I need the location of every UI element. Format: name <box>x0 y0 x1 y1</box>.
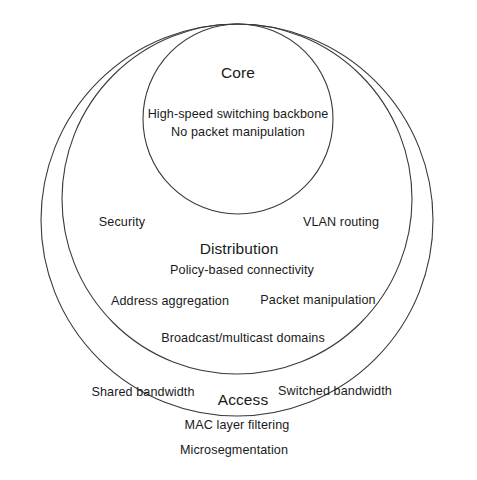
core-item-high-speed-switching-backbone: High-speed switching backbone <box>148 107 329 121</box>
core-item-no-packet-manipulation: No packet manipulation <box>171 125 305 139</box>
distribution-layer-heading: Distribution <box>200 240 279 258</box>
distribution-item-policy-based-connectivity: Policy-based connectivity <box>170 263 314 277</box>
access-item-switched-bandwidth: Switched bandwidth <box>278 384 392 398</box>
distribution-item-vlan-routing: VLAN routing <box>303 215 379 229</box>
network-hierarchy-diagram: Core High-speed switching backbone No pa… <box>0 0 477 480</box>
distribution-item-address-aggregation: Address aggregation <box>111 294 229 308</box>
access-layer-heading: Access <box>218 391 269 409</box>
distribution-item-broadcast-multicast-domains: Broadcast/multicast domains <box>161 331 325 345</box>
access-item-shared-bandwidth: Shared bandwidth <box>91 385 194 399</box>
access-item-mac-layer-filtering: MAC layer filtering <box>185 418 290 432</box>
access-item-microsegmentation: Microsegmentation <box>180 443 288 457</box>
distribution-item-packet-manipulation: Packet manipulation <box>260 293 375 307</box>
distribution-item-security: Security <box>99 215 145 229</box>
core-layer-heading: Core <box>221 64 255 82</box>
